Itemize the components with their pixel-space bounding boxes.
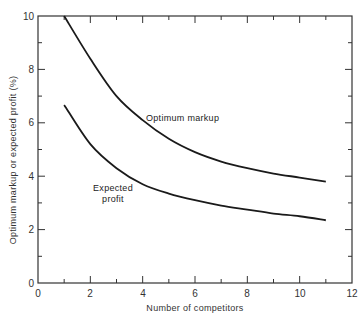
y-tick-label: 0 — [28, 278, 34, 289]
expected-profit-label-line2: profit — [102, 194, 124, 204]
y-tick-label: 6 — [28, 117, 34, 128]
x-tick-label: 0 — [35, 288, 41, 299]
y-tick-label: 8 — [28, 64, 34, 75]
y-tick-label: 4 — [28, 171, 34, 182]
x-tick-label: 2 — [87, 288, 93, 299]
y-tick-labels: 0 2 4 6 8 10 — [23, 11, 35, 289]
axis-ticks — [38, 16, 352, 283]
optimum-markup-label: Optimum markup — [146, 113, 219, 123]
y-tick-label: 2 — [28, 224, 34, 235]
x-tick-label: 8 — [244, 288, 250, 299]
x-tick-label: 4 — [140, 288, 146, 299]
y-tick-label: 10 — [23, 11, 35, 22]
plot-frame — [38, 16, 352, 283]
chart: 0 2 4 6 8 10 12 0 2 4 6 8 10 Number of c… — [0, 0, 363, 318]
x-tick-label: 12 — [346, 288, 358, 299]
x-tick-label: 6 — [192, 288, 198, 299]
expected-profit-label-line1: Expected — [93, 183, 133, 193]
x-tick-label: 10 — [294, 288, 306, 299]
x-tick-labels: 0 2 4 6 8 10 12 — [35, 288, 358, 299]
x-axis-title: Number of competitors — [146, 303, 244, 313]
y-axis-title: Optimum markup or expected profit (%) — [8, 76, 18, 245]
